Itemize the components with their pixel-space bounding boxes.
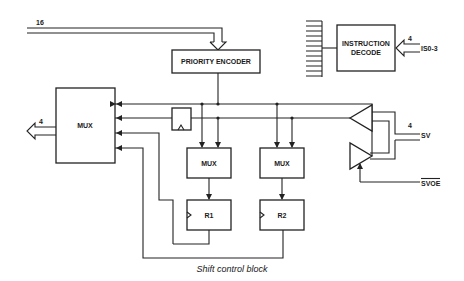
input-bus-16: 16 [27,19,226,50]
sv-width-label: 4 [408,122,412,129]
priority-encoder-block: PRIORITY ENCODER [172,50,260,104]
tri-state-buffers: 4 SV SVOE [350,105,441,187]
mux1-block: MUX [187,148,231,199]
output-width-label: 4 [39,118,43,125]
instruction-input-label: IS0-3 [421,45,438,52]
register-r2-block: R2 [260,200,304,230]
bus-arrow-left-icon [396,40,420,56]
register-r1-block: R1 [187,200,231,230]
instruction-decode-block: INSTRUCTION DECODE 4 IS0-3 [337,25,438,71]
instruction-decode-label-1: INSTRUCTION [342,40,390,47]
decode-output-lines [306,21,337,77]
main-mux-block: MUX 4 [27,88,115,163]
main-mux-label: MUX [77,122,93,129]
input-bus-width-label: 16 [36,19,44,26]
bus-arrow-down-icon [210,42,226,50]
instruction-decode-label-2: DECODE [351,49,381,56]
instruction-input-width-label: 4 [408,35,412,42]
output-bus-arrow-icon [27,123,56,139]
svoe-label: SVOE [421,180,441,187]
r1-label: R1 [205,212,214,219]
mux-input-lines [115,101,372,258]
shift-control-block-diagram: 16 PRIORITY ENCODER INSTRUCTION DECODE 4… [0,0,464,281]
bus-junctions [200,102,293,147]
output-buffer-icon [350,143,372,169]
input-buffer-icon [350,105,372,131]
priority-encoder-label: PRIORITY ENCODER [181,58,251,65]
caption: Shift control block [196,264,268,274]
mux2-block: MUX [260,148,304,199]
mux1-label: MUX [201,160,217,167]
flip-flop-block [172,108,191,130]
r2-label: R2 [278,212,287,219]
sv-label: SV [421,132,431,139]
mux2-label: MUX [274,160,290,167]
